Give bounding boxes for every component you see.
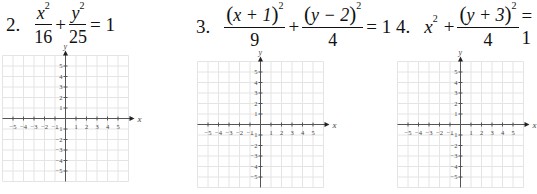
equals-one: = 1	[522, 5, 533, 49]
x-axis-arrow-icon	[325, 122, 330, 127]
problem-number: 4.	[396, 16, 410, 38]
problem-3-equation: 3. (x + 1)2 9 + (y − 2)2 4 = 1	[196, 4, 394, 49]
x-tick-label: −2	[236, 129, 243, 136]
x-tick-label: −4	[20, 123, 28, 130]
x-axis-arrow-icon	[525, 122, 530, 127]
y-axis-arrow-icon	[258, 57, 263, 62]
y-tick-label: 2	[59, 94, 62, 101]
y-tick-label: 3	[59, 83, 62, 90]
y-axis-label: y	[458, 48, 463, 57]
coordinate-grid-problem-3[interactable]: xy−5−4−3−2−11234554321−1−2−3−4−5	[197, 58, 337, 194]
x-axis-label: x	[532, 120, 537, 130]
equals-one: = 1	[90, 14, 115, 36]
x-tick-label: −3	[226, 129, 233, 136]
x-tick-label: −4	[415, 129, 423, 136]
fraction-y-term: y2 25	[69, 4, 87, 46]
equals-one: = 1	[366, 16, 391, 38]
x-tick-label: 5	[511, 129, 514, 136]
y-tick-label: −3	[451, 152, 458, 159]
x-tick-label: 2	[280, 129, 283, 136]
y-tick-label: 5	[254, 68, 257, 75]
y-tick-label: 1	[454, 110, 457, 117]
y-tick-label: −1	[56, 125, 63, 132]
x-tick-label: 1	[74, 123, 77, 130]
x-tick-label: −5	[10, 123, 17, 130]
x-tick-label: 2	[480, 129, 483, 136]
x-tick-label: 2	[85, 123, 88, 130]
y-axis-label: y	[258, 48, 263, 57]
x-tick-label: 4	[106, 123, 110, 130]
x-tick-label: 3	[290, 129, 293, 136]
y-tick-label: −3	[251, 152, 258, 159]
y-tick-label: −2	[56, 136, 63, 143]
coordinate-grid-problem-2[interactable]: xy−5−4−3−2−11234554321−1−2−3−4−5	[2, 52, 142, 188]
y-tick-label: 1	[254, 110, 257, 117]
y-axis-arrow-icon	[63, 51, 68, 56]
x-tick-label: 5	[311, 129, 314, 136]
x-tick-label: 3	[490, 129, 493, 136]
plus-sign: +	[55, 14, 66, 36]
y-tick-label: −5	[56, 167, 63, 174]
fraction-x-term: x2 16	[34, 4, 52, 46]
y-tick-label: 3	[254, 89, 257, 96]
plus-sign: +	[288, 16, 299, 38]
y-tick-label: 1	[59, 104, 62, 111]
y-axis-arrow-icon	[458, 57, 463, 62]
y-tick-label: −1	[251, 131, 258, 138]
fraction-y-term: (y − 2)2 4	[302, 4, 363, 49]
x-tick-label: 3	[95, 123, 98, 130]
x-tick-label: −3	[31, 123, 38, 130]
y-tick-label: 3	[454, 89, 457, 96]
y-tick-label: 5	[59, 62, 62, 69]
y-tick-label: 2	[454, 100, 457, 107]
problem-4-equation: 4. x2 + (y + 3)2 4 = 1	[396, 4, 535, 49]
y-tick-label: −4	[56, 157, 64, 164]
x-axis-label: x	[332, 120, 337, 130]
x-tick-label: −5	[205, 129, 212, 136]
plus-sign: +	[444, 16, 455, 38]
y-tick-label: −1	[451, 131, 458, 138]
y-tick-label: 5	[454, 68, 457, 75]
y-tick-label: −5	[451, 173, 458, 180]
x-tick-label: 1	[269, 129, 272, 136]
y-axis-label: y	[63, 42, 68, 51]
problem-2-equation: 2. x2 16 + y2 25 = 1	[6, 4, 118, 46]
x-tick-label: −2	[436, 129, 443, 136]
problem-number: 3.	[196, 16, 210, 38]
y-tick-label: −4	[251, 163, 259, 170]
x-axis-arrow-icon	[130, 116, 135, 121]
y-tick-label: 2	[254, 100, 257, 107]
x-tick-label: 1	[469, 129, 472, 136]
x-tick-label: 4	[301, 129, 305, 136]
coordinate-grid-problem-4[interactable]: xy−5−4−3−2−11234554321−1−2−3−4−5	[397, 58, 537, 194]
x-squared-term: x2	[424, 16, 437, 38]
y-tick-label: −2	[251, 142, 258, 149]
x-axis-label: x	[137, 114, 142, 124]
x-tick-label: −5	[405, 129, 412, 136]
y-tick-label: −2	[451, 142, 458, 149]
x-tick-label: 4	[501, 129, 505, 136]
problem-number: 2.	[6, 14, 20, 36]
x-tick-label: −2	[41, 123, 48, 130]
y-tick-label: −4	[451, 163, 459, 170]
y-tick-label: −3	[56, 146, 63, 153]
x-tick-label: −3	[426, 129, 433, 136]
x-tick-label: −4	[215, 129, 223, 136]
fraction-x-term: (x + 1)2 9	[224, 4, 285, 49]
x-tick-label: 5	[116, 123, 119, 130]
fraction-y-term: (y + 3)2 4	[457, 4, 518, 49]
y-tick-label: −5	[251, 173, 258, 180]
